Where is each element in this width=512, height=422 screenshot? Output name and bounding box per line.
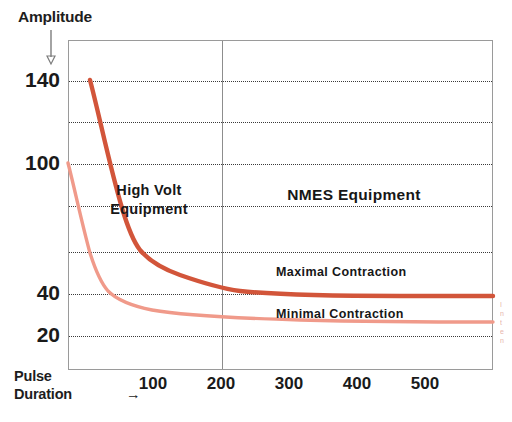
gridline-120 <box>69 122 492 123</box>
x-axis-title-line1: Pulse <box>14 368 52 384</box>
y-axis-tick-labels: 140 100 40 20 <box>0 40 60 370</box>
gridline-140 <box>69 81 492 82</box>
y-tick-140: 140 <box>25 68 60 92</box>
x-axis-arrow-icon: → <box>126 386 140 402</box>
cropped-edge-text: Inten <box>500 300 512 410</box>
y-tick-100: 100 <box>25 151 60 175</box>
series-label-minimal: Minimal Contraction <box>276 307 404 321</box>
chart-figure: Amplitude 140 100 40 20 <box>0 0 512 422</box>
y-axis-title: Amplitude <box>18 8 92 26</box>
high-volt-line1: High Volt <box>88 181 210 200</box>
high-volt-line2: Equipment <box>88 200 210 219</box>
gridline-60 <box>69 252 492 253</box>
x-axis-title-line2: Duration <box>14 386 72 402</box>
region-label-high-volt: High Volt Equipment <box>88 181 210 219</box>
x-tick-100: 100 <box>139 374 167 394</box>
gridline-100 <box>69 164 492 165</box>
x-tick-400: 400 <box>343 374 371 394</box>
y-tick-20: 20 <box>37 323 60 347</box>
x-tick-500: 500 <box>411 374 439 394</box>
x-tick-200: 200 <box>207 374 235 394</box>
region-label-nmes: NMES Equipment <box>236 186 472 204</box>
gridline-40 <box>69 294 492 295</box>
y-tick-40: 40 <box>37 281 60 305</box>
section-divider-200us <box>222 41 223 369</box>
series-label-maximal: Maximal Contraction <box>276 265 407 279</box>
x-tick-300: 300 <box>275 374 303 394</box>
gridline-20 <box>69 336 492 337</box>
